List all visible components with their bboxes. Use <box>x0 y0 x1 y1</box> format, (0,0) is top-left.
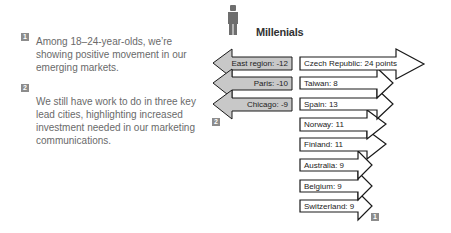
positive-label: Finland: 11 <box>304 140 344 149</box>
negative-label: East region: -12 <box>232 59 289 68</box>
positive-label: Belgium: 9 <box>304 182 342 191</box>
positive-label: Taiwan: 8 <box>304 79 338 88</box>
positive-label: Spain: 13 <box>304 100 338 109</box>
positive-label: Australia: 9 <box>304 161 345 170</box>
positive-label: Czech Republic: 24 points <box>304 59 397 68</box>
positive-label: Norway: 11 <box>304 120 344 129</box>
negative-label: Chicago: -9 <box>247 100 288 109</box>
positive-arrow-australia: Australia: 9 <box>300 151 372 179</box>
positive-arrow-taiwan: Taiwan: 8 <box>300 68 393 98</box>
positive-arrow-norway: Norway: 11 <box>300 110 386 139</box>
positive-group-badge: 1 <box>371 213 379 221</box>
positive-arrow-czech-republic: Czech Republic: 24 points <box>300 49 424 79</box>
positive-label: Switzerland: 9 <box>304 202 355 211</box>
negative-group-badge: 2 <box>212 118 220 126</box>
arrow-diagram: East region: -12 Paris: -10 Chicago: -9 … <box>0 0 451 233</box>
negative-arrow-chicago: Chicago: -9 <box>213 90 292 119</box>
negative-arrow-paris: Paris: -10 <box>213 69 292 98</box>
negative-label: Paris: -10 <box>254 79 289 88</box>
